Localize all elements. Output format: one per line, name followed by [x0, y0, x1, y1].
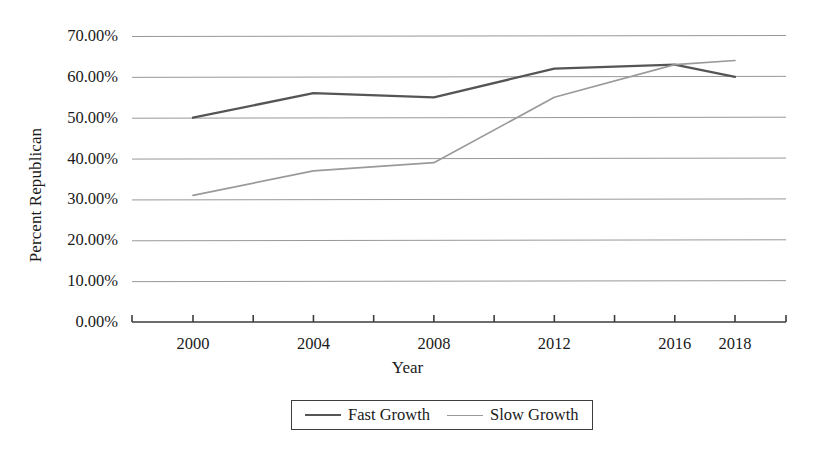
gridline [132, 158, 786, 159]
line-chart: 0.00%10.00%20.00%30.00%40.00%50.00%60.00… [0, 0, 815, 456]
legend-swatch-line-icon [305, 414, 341, 416]
gridline [132, 36, 786, 37]
x-tick-label: 2008 [394, 335, 474, 353]
x-tick-label: 2004 [273, 335, 353, 353]
x-tick-label: 2012 [514, 335, 594, 353]
y-axis-title: Percent Republican [23, 90, 49, 300]
y-tick-label: 70.00% [22, 28, 118, 44]
chart-legend: Fast GrowthSlow Growth [291, 400, 593, 430]
gridline [132, 240, 786, 241]
y-tick-label: 0.00% [22, 314, 118, 330]
gridline [132, 199, 786, 200]
x-axis-ticks [132, 315, 786, 322]
x-axis-title: Year [0, 357, 815, 379]
legend-entry: Slow Growth [447, 406, 578, 424]
y-tick-label: 60.00% [22, 69, 118, 85]
gridline [132, 76, 786, 77]
x-tick-label: 2018 [695, 335, 775, 353]
x-tick-label: 2000 [153, 335, 233, 353]
gridline [132, 281, 786, 282]
gridlines [132, 36, 786, 282]
legend-swatch-line-icon [447, 415, 483, 416]
series-line-slow-growth [193, 61, 735, 196]
legend-label: Slow Growth [490, 406, 578, 424]
gridline [132, 117, 786, 118]
legend-label: Fast Growth [348, 406, 430, 424]
chart-canvas [0, 0, 815, 456]
data-series-lines [193, 61, 735, 196]
legend-entry: Fast Growth [305, 406, 430, 424]
series-line-fast-growth [193, 65, 735, 118]
